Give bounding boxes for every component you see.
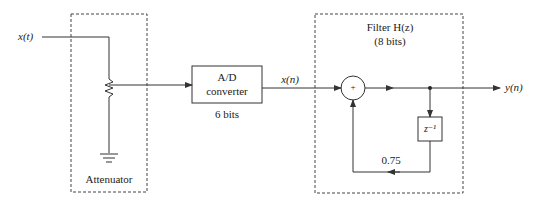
filter-bits-label: (8 bits) (374, 36, 405, 47)
sampled-signal-label: x(n) (281, 74, 299, 85)
diagram-lines (0, 0, 533, 204)
input-wire (42, 37, 109, 79)
feedback-gain-label: 0.75 (381, 155, 400, 166)
adc-bits-label: 6 bits (215, 109, 239, 120)
resistor-icon (105, 79, 113, 97)
adc-label-line1: A/D (218, 72, 237, 83)
input-signal-label: x(t) (18, 31, 33, 42)
attenuator-label: Attenuator (85, 174, 132, 185)
adder-symbol: + (350, 83, 355, 92)
ground-icon (100, 154, 118, 162)
filter-title: Filter H(z) (367, 22, 414, 33)
delay-label: z⁻¹ (424, 124, 436, 134)
adc-label-line2: converter (206, 86, 248, 97)
block-diagram: x(t) Attenuator A/D converter 6 bits x(n… (0, 0, 533, 204)
output-signal-label: y(n) (505, 82, 523, 93)
